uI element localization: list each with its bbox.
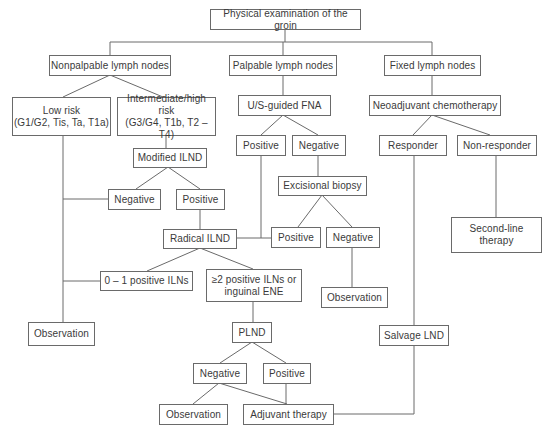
node-excisional-biopsy: Excisional biopsy [278, 176, 367, 196]
node-adjuvant-therapy: Adjuvant therapy [243, 404, 334, 425]
node-zero-one-positive-ilns: 0 – 1 positive ILNs [100, 271, 193, 291]
node-palpable-lymph-nodes: Palpable lymph nodes [229, 55, 337, 76]
node-physical-examination: Physical examination of the groin [210, 9, 361, 30]
node-biopsy-negative: Negative [326, 227, 380, 248]
node-low-risk: Low risk (G1/G2, Tis, Ta, T1a) [12, 97, 111, 136]
node-observation-bottom: Observation [159, 404, 228, 425]
node-modified-ilnd: Modified ILND [133, 148, 207, 168]
node-plnd-positive: Positive [263, 363, 311, 384]
node-milnd-negative: Negative [108, 189, 161, 210]
node-fixed-lymph-nodes: Fixed lymph nodes [384, 55, 481, 76]
node-plnd: PLND [232, 322, 272, 343]
node-two-plus-positive-ilns: ≥2 positive ILNs or inguinal ENE [206, 269, 302, 302]
node-salvage-lnd: Salvage LND [379, 325, 449, 346]
node-intermediate-high-risk: Intermediate/high risk (G3/G4, T1b, T2 –… [117, 97, 216, 136]
node-radical-ilnd: Radical ILND [163, 229, 237, 249]
node-fna-negative: Negative [292, 135, 346, 156]
node-us-guided-fna: U/S-guided FNA [238, 95, 331, 116]
node-neoadjuvant-chemotherapy: Neoadjuvant chemotherapy [369, 95, 501, 116]
node-plnd-negative: Negative [193, 363, 247, 384]
node-observation-mid: Observation [321, 287, 388, 308]
node-nonpalpable-lymph-nodes: Nonpalpable lymph nodes [49, 55, 171, 76]
node-biopsy-positive: Positive [271, 227, 321, 248]
node-second-line-therapy: Second-line therapy [451, 217, 542, 253]
node-milnd-positive: Positive [176, 189, 225, 210]
node-observation-left: Observation [28, 322, 95, 346]
node-fna-positive: Positive [236, 135, 286, 156]
node-non-responder: Non-responder [457, 135, 537, 156]
node-responder: Responder [379, 135, 447, 156]
